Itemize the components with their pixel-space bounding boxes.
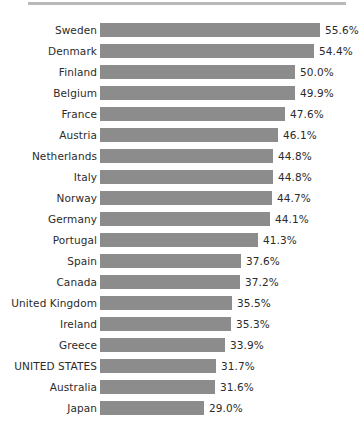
bar	[100, 338, 225, 352]
value-label: 29.0%	[209, 398, 243, 419]
bar	[100, 170, 273, 184]
category-label: Finland	[0, 62, 97, 83]
bar-row: Portugal41.3%	[0, 230, 354, 251]
value-label: 44.7%	[277, 188, 311, 209]
category-label: Japan	[0, 398, 97, 419]
value-label: 46.1%	[283, 125, 317, 146]
category-label: Netherlands	[0, 146, 97, 167]
category-label: Spain	[0, 251, 97, 272]
value-label: 41.3%	[263, 230, 297, 251]
bar-row: UNITED STATES31.7%	[0, 356, 354, 377]
category-label: Australia	[0, 377, 97, 398]
category-label: Italy	[0, 167, 97, 188]
bar	[100, 359, 216, 373]
bar	[100, 23, 320, 37]
bar-row: Japan29.0%	[0, 398, 354, 419]
value-label: 44.1%	[275, 209, 309, 230]
bar-track: 29.0%	[100, 398, 354, 419]
bar-track: 44.8%	[100, 146, 354, 167]
bar-row: Belgium49.9%	[0, 83, 354, 104]
bar-track: 31.7%	[100, 356, 354, 377]
bar	[100, 149, 273, 163]
bar-row: France47.6%	[0, 104, 354, 125]
bar-track: 44.7%	[100, 188, 354, 209]
bar-row: Norway44.7%	[0, 188, 354, 209]
bar	[100, 65, 295, 79]
bar-track: 35.3%	[100, 314, 354, 335]
category-label: Canada	[0, 272, 97, 293]
bar-track: 35.5%	[100, 293, 354, 314]
bar-row: Italy44.8%	[0, 167, 354, 188]
category-label: Portugal	[0, 230, 97, 251]
bar-track: 44.8%	[100, 167, 354, 188]
category-label: Austria	[0, 125, 97, 146]
bar-track: 31.6%	[100, 377, 354, 398]
bar-row: Denmark54.4%	[0, 41, 354, 62]
category-label: Germany	[0, 209, 97, 230]
value-label: 33.9%	[230, 335, 264, 356]
bar-row: Canada37.2%	[0, 272, 354, 293]
bar-row: Spain37.6%	[0, 251, 354, 272]
bar-row: Finland50.0%	[0, 62, 354, 83]
value-label: 44.8%	[278, 167, 312, 188]
horizontal-bar-chart: Sweden55.6%Denmark54.4%Finland50.0%Belgi…	[0, 20, 354, 419]
bar-track: 55.6%	[100, 20, 354, 41]
bar	[100, 233, 258, 247]
category-label: Belgium	[0, 83, 97, 104]
bar	[100, 128, 278, 142]
bar-track: 49.9%	[100, 83, 354, 104]
category-label: Ireland	[0, 314, 97, 335]
bar-row: United Kingdom35.5%	[0, 293, 354, 314]
category-label: Denmark	[0, 41, 97, 62]
value-label: 47.6%	[290, 104, 324, 125]
value-label: 31.7%	[221, 356, 255, 377]
category-label: Greece	[0, 335, 97, 356]
bar-track: 33.9%	[100, 335, 354, 356]
value-label: 50.0%	[300, 62, 334, 83]
category-label: Sweden	[0, 20, 97, 41]
bar-track: 54.4%	[100, 41, 354, 62]
bar-row: Netherlands44.8%	[0, 146, 354, 167]
bar	[100, 254, 241, 268]
bar	[100, 86, 295, 100]
bar	[100, 212, 270, 226]
value-label: 54.4%	[319, 41, 353, 62]
top-divider-rule	[28, 2, 346, 5]
category-label: France	[0, 104, 97, 125]
bar-row: Austria46.1%	[0, 125, 354, 146]
value-label: 37.2%	[245, 272, 279, 293]
value-label: 35.5%	[237, 293, 271, 314]
bar	[100, 44, 314, 58]
bar-track: 37.6%	[100, 251, 354, 272]
bar-row: Australia31.6%	[0, 377, 354, 398]
value-label: 31.6%	[220, 377, 254, 398]
bar-track: 46.1%	[100, 125, 354, 146]
bar	[100, 191, 272, 205]
bar	[100, 275, 240, 289]
bar	[100, 296, 232, 310]
bar-track: 37.2%	[100, 272, 354, 293]
category-label: UNITED STATES	[0, 356, 97, 377]
bar	[100, 107, 285, 121]
bar-track: 50.0%	[100, 62, 354, 83]
value-label: 44.8%	[278, 146, 312, 167]
bar	[100, 401, 204, 415]
bar	[100, 380, 215, 394]
value-label: 49.9%	[300, 83, 334, 104]
bar-row: Sweden55.6%	[0, 20, 354, 41]
bar	[100, 317, 231, 331]
value-label: 55.6%	[325, 20, 359, 41]
bar-row: Germany44.1%	[0, 209, 354, 230]
bar-track: 44.1%	[100, 209, 354, 230]
category-label: Norway	[0, 188, 97, 209]
bar-track: 47.6%	[100, 104, 354, 125]
bar-row: Greece33.9%	[0, 335, 354, 356]
bar-track: 41.3%	[100, 230, 354, 251]
bar-row: Ireland35.3%	[0, 314, 354, 335]
value-label: 37.6%	[246, 251, 280, 272]
category-label: United Kingdom	[0, 293, 97, 314]
value-label: 35.3%	[236, 314, 270, 335]
